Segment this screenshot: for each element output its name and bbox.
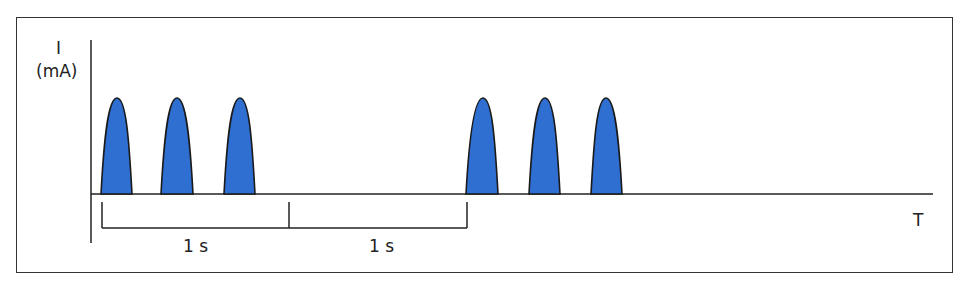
current-pulse <box>101 98 132 194</box>
current-pulse <box>591 98 622 194</box>
current-pulse <box>224 98 255 194</box>
interval-label-1: 1 s <box>183 238 208 255</box>
diagram-graphics <box>0 0 969 291</box>
y-axis-label-unit: (mA) <box>36 63 77 80</box>
interval-bracket <box>102 202 467 228</box>
y-axis-label-symbol: I <box>56 40 61 57</box>
pulse-train-diagram: I (mA) T 1 s 1 s <box>0 0 969 291</box>
current-pulse <box>466 98 498 194</box>
current-pulse <box>529 98 560 194</box>
current-pulse <box>161 98 193 194</box>
interval-label-2: 1 s <box>369 238 394 255</box>
x-axis-label: T <box>913 212 923 229</box>
pulses <box>101 98 622 194</box>
